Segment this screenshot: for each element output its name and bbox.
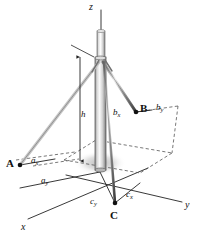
dash-b-drop [172,106,178,153]
mast [95,12,106,172]
dash-ax-run [33,159,79,166]
dimension-label-cx: cx [126,190,133,199]
dimension-label-by: by [156,103,163,112]
dim-h-base: h [81,109,86,119]
mast-base-foot [95,168,106,172]
guyed-mast-diagram: z y x A B C h ax ay bx by cx cy [0,0,198,241]
dim-ay-sub: y [46,179,49,186]
dim-bx-sub: x [118,111,121,118]
dim-bx-base: b [113,107,118,117]
anchor-dot-C [113,201,118,206]
point-label-A: A [6,158,14,169]
dimension-label-h: h [81,110,86,119]
dash-plane-back [96,140,172,153]
dim-by-sub: y [161,106,164,113]
dim-ax-base: a [31,155,36,165]
h-leader-line [71,45,94,57]
axis-label-z: z [89,2,93,12]
dimension-label-ax: ax [31,156,38,165]
guy-wires [20,60,136,203]
anchor-dot-B [134,110,139,115]
mast-upper-cap [97,30,105,33]
axis-y-line [66,175,182,202]
dim-cx-sub: x [130,193,133,200]
dim-cy-sub: y [94,200,97,207]
mast-upper-section [97,31,105,60]
mast-collar [95,56,106,60]
dim-by-base: b [156,102,161,112]
point-label-B: B [140,103,147,114]
dim-ax-sub: x [36,159,39,166]
dimension-label-bx: bx [113,108,120,117]
guy-wire-to-A-edge [20,62,99,165]
height-dimension [71,45,94,161]
dimension-label-ay: ay [41,176,48,185]
dim-ay-base: a [41,175,46,185]
dash-plane-right [140,153,172,173]
point-label-C: C [110,210,118,221]
diagram-canvas [0,0,198,241]
dimension-label-cy: cy [90,197,97,206]
axis-label-x: x [21,222,25,232]
anchor-dot-A [18,163,23,168]
axis-label-y: y [185,200,189,210]
